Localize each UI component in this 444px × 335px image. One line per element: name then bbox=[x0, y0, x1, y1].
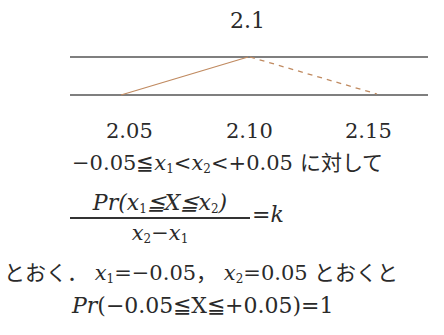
condition-line: −0.05≦x1<x2<+0.05 に対して bbox=[72, 146, 383, 176]
fraction-numerator: Pr(x1≦X≦x2) bbox=[91, 190, 229, 217]
tick-2-05: 2.05 bbox=[106, 119, 153, 143]
tick-2-15: 2.15 bbox=[345, 119, 392, 143]
density-fraction: Pr(x1≦X≦x2) x2−x1 =k bbox=[70, 190, 284, 246]
tick-2-10: 2.10 bbox=[226, 119, 273, 143]
equals-k: =k bbox=[252, 202, 284, 227]
fraction-denominator: x2−x1 bbox=[132, 219, 189, 246]
dashed-segment bbox=[250, 57, 377, 94]
solid-segment bbox=[121, 57, 248, 95]
substitution-line: とおく． x1=−0.05， x2=0.05 とおくと bbox=[4, 256, 398, 286]
triangular-distribution-diagram bbox=[0, 0, 444, 110]
probability-line: Pr(−0.05≦X≦+0.05)=1 bbox=[72, 293, 333, 318]
